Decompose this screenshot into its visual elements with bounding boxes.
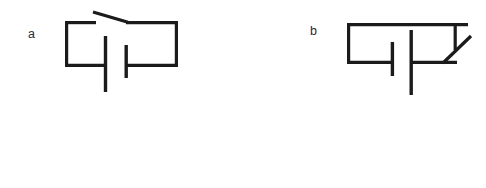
circuit-diagram-figure: a b [0, 0, 486, 188]
panel-b-closed-switch-arm[interactable] [443, 36, 471, 63]
panel-a: a [28, 12, 178, 92]
panel-a-open-switch-arm[interactable] [93, 12, 128, 22]
panel-b-label: b [310, 24, 317, 38]
panel-b: b [310, 23, 471, 95]
panel-a-label: a [28, 27, 35, 41]
figure-container: a b [0, 0, 486, 188]
